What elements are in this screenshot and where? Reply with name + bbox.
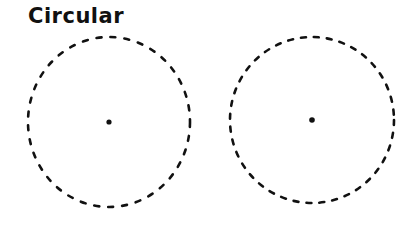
right-circle <box>230 37 394 203</box>
right-center-dot <box>309 117 315 123</box>
left-circle <box>28 37 190 207</box>
diagram-canvas <box>0 0 420 247</box>
left-center-dot <box>106 119 111 124</box>
